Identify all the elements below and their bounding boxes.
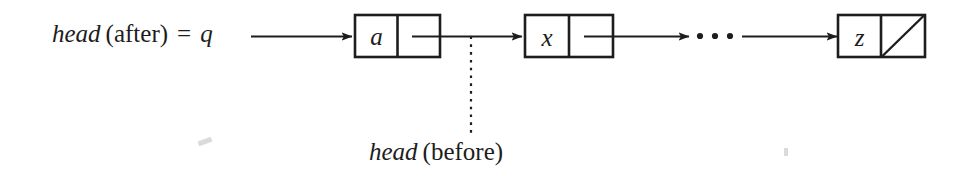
head-before-qualifier: (before) (423, 138, 504, 165)
head-after-name: head (52, 20, 101, 47)
head-after-label: head(after)=q (52, 21, 213, 46)
scan-artifact-right (784, 148, 788, 156)
head-after-equals: = (177, 20, 191, 47)
node-x-value: x (525, 25, 569, 50)
head-after-qualifier: (after) (106, 20, 168, 47)
head-after-variable: q (200, 20, 213, 47)
head-before-label: head(before) (369, 139, 503, 164)
node-z-value: z (838, 25, 881, 50)
linked-list-diagram: head(after)=q head(before) a x z (0, 0, 969, 176)
head-before-name: head (369, 138, 418, 165)
node-a-value: a (355, 24, 398, 49)
ellipsis-dots (697, 33, 733, 39)
